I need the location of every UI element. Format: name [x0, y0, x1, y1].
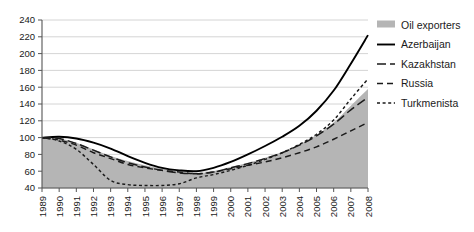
x-tick-label: 2007 — [345, 196, 356, 217]
x-tick-label: 2001 — [242, 196, 253, 217]
x-tick-label: 1989 — [37, 196, 48, 217]
x-tick-label: 1994 — [122, 196, 133, 217]
x-tick-label: 1993 — [105, 196, 116, 217]
legend-label: Kazakhstan — [401, 58, 456, 70]
x-tick-label: 1992 — [88, 196, 99, 217]
x-tick-label: 1996 — [157, 196, 168, 217]
y-tick-label: 100 — [19, 132, 35, 143]
y-tick-label: 220 — [19, 31, 35, 42]
chart-legend: Oil exportersAzerbaijanKazakhstanRussiaT… — [377, 19, 461, 109]
x-tick-label: 2008 — [363, 196, 374, 217]
x-tick-label: 2000 — [225, 196, 236, 217]
y-tick-label: 200 — [19, 48, 35, 59]
x-tick-label: 1999 — [208, 196, 219, 217]
legend-label: Russia — [401, 77, 433, 89]
chart-container: 406080100120140160180200220240 198919901… — [0, 0, 474, 232]
y-tick-label: 240 — [19, 14, 35, 25]
y-tick-label: 180 — [19, 65, 35, 76]
x-axis-ticks: 1989199019911992199319941995199619971998… — [37, 188, 374, 217]
legend-swatch-area — [377, 21, 395, 28]
x-tick-label: 2005 — [311, 196, 322, 217]
x-tick-label: 2006 — [328, 196, 339, 217]
x-tick-label: 2004 — [294, 196, 305, 217]
legend-label: Azerbaijan — [401, 38, 451, 50]
y-tick-label: 160 — [19, 82, 35, 93]
y-axis-ticks: 406080100120140160180200220240 — [19, 14, 42, 193]
x-tick-label: 2003 — [277, 196, 288, 217]
x-tick-label: 1991 — [71, 196, 82, 217]
y-tick-label: 60 — [24, 166, 35, 177]
x-tick-label: 1995 — [140, 196, 151, 217]
legend-label: Oil exporters — [401, 19, 461, 31]
y-tick-label: 120 — [19, 115, 35, 126]
y-tick-label: 80 — [24, 149, 35, 160]
x-tick-label: 1998 — [191, 196, 202, 217]
x-tick-label: 1990 — [54, 196, 65, 217]
x-tick-label: 1997 — [174, 196, 185, 217]
legend-label: Turkmenista — [401, 97, 459, 109]
x-tick-label: 2002 — [260, 196, 271, 217]
y-tick-label: 40 — [24, 182, 35, 193]
y-tick-label: 140 — [19, 98, 35, 109]
line-chart: 406080100120140160180200220240 198919901… — [0, 0, 474, 232]
